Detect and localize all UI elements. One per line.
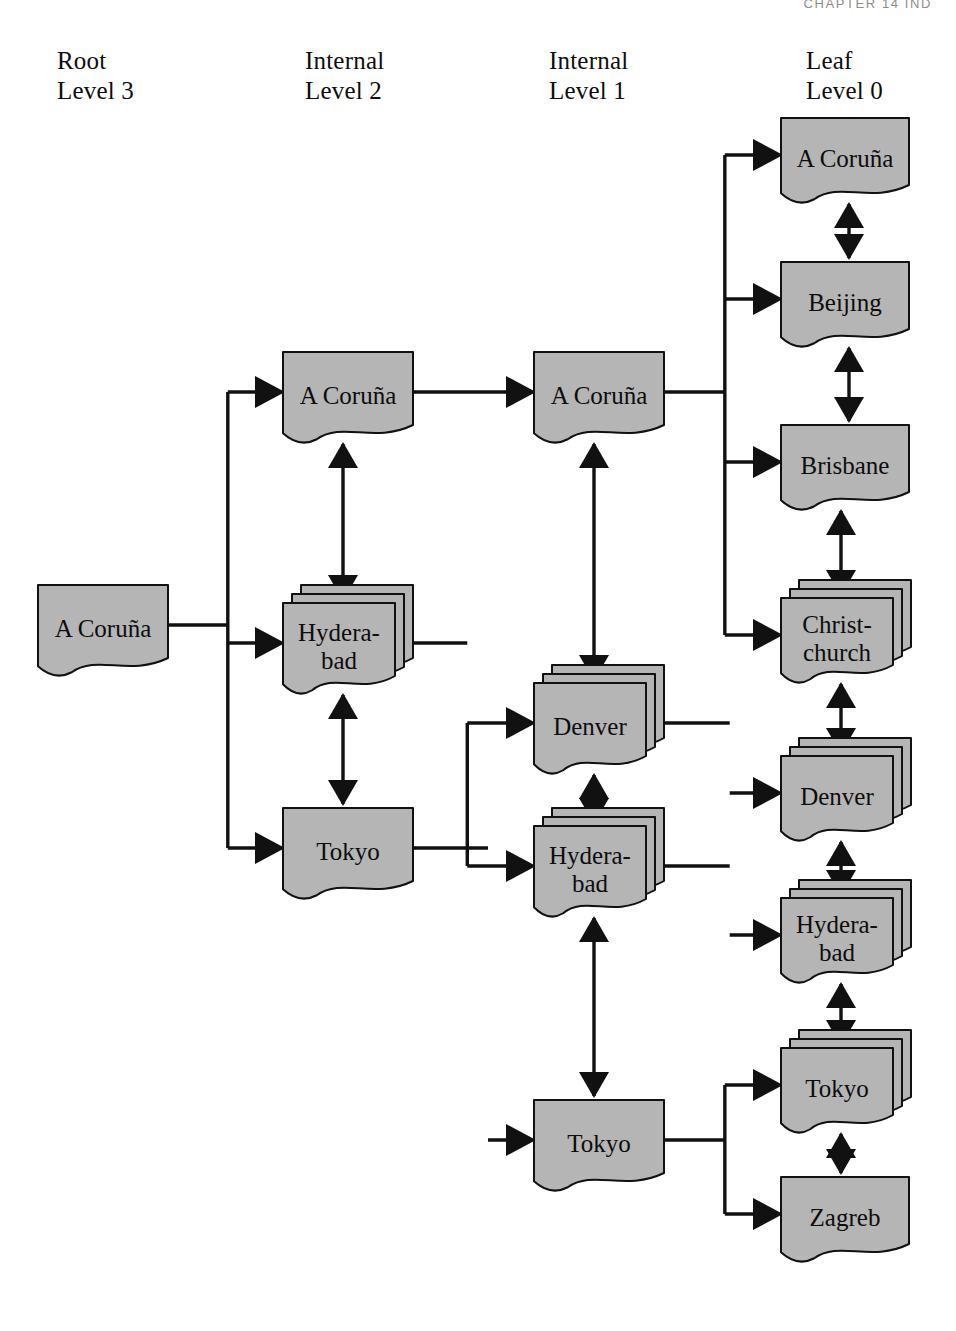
node-shape-lf-beijing — [781, 262, 913, 348]
index-node-root-acoruna[interactable]: A Coruña — [38, 585, 168, 673]
arrowhead-right — [506, 1124, 536, 1156]
column-header-internal2: InternalLevel 2 — [305, 46, 384, 106]
index-node-l2-acoruna[interactable]: A Coruña — [283, 352, 413, 440]
index-node-l1-hyderabad[interactable]: Hydera- bad — [534, 808, 646, 896]
column-level-internal2: Level 2 — [305, 76, 384, 106]
arrowhead-right — [255, 832, 285, 864]
arrowhead-up — [579, 442, 609, 468]
column-role-root: Root — [57, 46, 134, 76]
node-shape-lf-brisbane — [781, 425, 913, 511]
arrowhead-right — [753, 919, 783, 951]
node-shape-l2-tokyo — [283, 808, 417, 900]
arrowhead-down — [328, 780, 358, 806]
arrowhead-up — [834, 346, 864, 372]
arrowhead-right — [753, 139, 783, 171]
arrowhead-down — [826, 1149, 856, 1175]
index-node-lf-denver[interactable]: Denver — [781, 738, 893, 820]
index-node-l2-hyderabad[interactable]: Hydera- bad — [283, 585, 395, 673]
arrowhead-up — [328, 693, 358, 719]
index-node-l1-denver[interactable]: Denver — [534, 665, 646, 753]
column-level-root: Level 3 — [57, 76, 134, 106]
index-node-lf-tokyo[interactable]: Tokyo — [781, 1030, 893, 1112]
column-header-internal1: InternalLevel 1 — [549, 46, 628, 106]
node-shape-lf-hyderabad — [781, 880, 915, 984]
index-node-lf-beijing[interactable]: Beijing — [781, 262, 909, 344]
arrowhead-right — [506, 707, 536, 739]
node-shape-lf-denver — [781, 738, 915, 842]
arrowhead-right — [753, 283, 783, 315]
column-level-internal1: Level 1 — [549, 76, 628, 106]
arrowhead-right — [506, 850, 536, 882]
index-node-lf-brisbane[interactable]: Brisbane — [781, 425, 909, 507]
node-shape-lf-tokyo — [781, 1030, 915, 1134]
arrowhead-right — [753, 1069, 783, 1101]
arrowhead-up — [826, 982, 856, 1008]
node-shape-l2-hyderabad — [283, 585, 417, 695]
arrowhead-up — [826, 682, 856, 708]
index-node-lf-hyderabad[interactable]: Hydera- bad — [781, 880, 893, 962]
column-role-internal2: Internal — [305, 46, 384, 76]
arrowhead-right — [753, 1198, 783, 1230]
arrowhead-right — [753, 619, 783, 651]
arrowhead-down — [579, 1072, 609, 1098]
index-node-lf-zagreb[interactable]: Zagreb — [781, 1177, 909, 1259]
arrowhead-up — [579, 916, 609, 942]
arrowhead-up — [579, 773, 609, 799]
arrowhead-right — [506, 376, 536, 408]
node-shape-l2-acoruna — [283, 352, 417, 444]
node-shape-l1-denver — [534, 665, 668, 775]
arrowhead-right — [753, 446, 783, 478]
node-shape-lf-acoruna — [781, 118, 913, 204]
column-role-internal1: Internal — [549, 46, 628, 76]
index-node-lf-christchurch[interactable]: Christ- church — [781, 580, 893, 662]
node-shape-l1-hyderabad — [534, 808, 668, 918]
arrowhead-right — [255, 627, 285, 659]
node-shape-l1-acoruna — [534, 352, 668, 444]
arrowhead-down — [834, 397, 864, 423]
arrowhead-up — [834, 202, 864, 228]
arrowhead-up — [826, 509, 856, 535]
arrowhead-right — [753, 777, 783, 809]
node-shape-l1-tokyo — [534, 1100, 668, 1192]
column-level-leaf: Level 0 — [806, 76, 883, 106]
index-node-lf-acoruna[interactable]: A Coruña — [781, 118, 909, 200]
index-node-l1-tokyo[interactable]: Tokyo — [534, 1100, 664, 1188]
diagram-canvas: CHAPTER 14 IND RootLevel 3InternalLevel … — [0, 0, 956, 1331]
column-header-leaf: LeafLevel 0 — [806, 46, 883, 106]
arrowhead-right — [255, 376, 285, 408]
arrowhead-up — [328, 442, 358, 468]
node-shape-lf-christchurch — [781, 580, 915, 684]
node-shape-root-acoruna — [38, 585, 172, 677]
column-role-leaf: Leaf — [806, 46, 883, 76]
arrowhead-up — [826, 840, 856, 866]
arrowhead-down — [834, 234, 864, 260]
node-shape-lf-zagreb — [781, 1177, 913, 1263]
index-node-l2-tokyo[interactable]: Tokyo — [283, 808, 413, 896]
index-node-l1-acoruna[interactable]: A Coruña — [534, 352, 664, 440]
column-header-root: RootLevel 3 — [57, 46, 134, 106]
